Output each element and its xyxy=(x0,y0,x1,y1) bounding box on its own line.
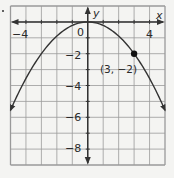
x-tick-label-4: 4 xyxy=(146,28,153,41)
point-marker-3-neg2 xyxy=(131,51,137,57)
origin-label: 0 xyxy=(77,26,84,39)
y-axis-label: y xyxy=(92,7,100,20)
x-axis-label: x xyxy=(155,9,163,22)
y-tick-label-neg4: −4 xyxy=(65,80,81,93)
y-tick-label-neg2: −2 xyxy=(65,49,81,62)
point-annotation-label: (3, −2) xyxy=(100,63,137,75)
x-tick-label-neg4: −4 xyxy=(12,28,28,41)
y-tick-label-neg6: −6 xyxy=(65,111,81,124)
y-tick-label-neg8: −8 xyxy=(65,142,81,155)
parabola-graph: x y 0 −4 4 −2 −4 −6 −8 (3, −2) xyxy=(0,0,174,178)
